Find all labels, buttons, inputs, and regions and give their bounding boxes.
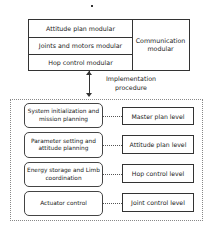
implementation-label-line2: procedure <box>96 83 166 92</box>
implementation-label: Implementation procedure <box>96 74 166 92</box>
task-box-3: Energy storage and Limb coordination <box>24 162 103 187</box>
level-box-master-plan: Master plan level <box>122 107 194 125</box>
attitude-plan-module: Attitude plan modular <box>29 20 133 38</box>
implementation-label-line1: Implementation <box>96 74 166 83</box>
arrow-head-up-icon <box>86 71 92 75</box>
connector-line-1 <box>103 116 122 117</box>
hop-control-module: Hop control modular <box>29 54 133 71</box>
task-box-2: Parameter setting and attitude planning <box>24 132 103 158</box>
task-box-4: Actuator control <box>24 191 103 216</box>
connector-line-4 <box>103 203 122 204</box>
level-box-attitude-plan: Attitude plan level <box>122 135 194 154</box>
level-box-hop-control: Hop control level <box>122 164 194 183</box>
communication-module: Communication modular <box>132 20 189 70</box>
connector-line-3 <box>103 174 122 175</box>
arrow-head-down-icon <box>86 93 92 97</box>
module-block: Attitude plan modular Joints and motors … <box>28 19 190 71</box>
communication-module-label: Communication modular <box>133 37 189 53</box>
connector-line-2 <box>103 145 122 146</box>
stray-dot <box>91 5 93 7</box>
level-box-joint-control: Joint control level <box>122 193 194 212</box>
task-box-1: System initialization and mission planni… <box>24 103 103 128</box>
joints-motors-module: Joints and motors modular <box>29 37 133 55</box>
